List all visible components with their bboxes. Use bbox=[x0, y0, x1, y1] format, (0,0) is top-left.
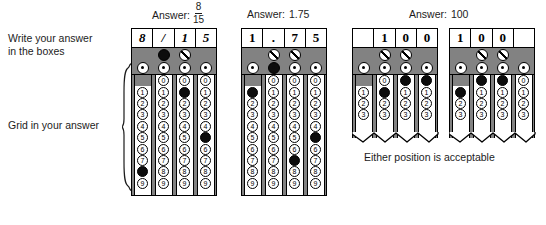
digit-bubble[interactable]: 6 bbox=[158, 144, 169, 155]
slash-bubble-cell[interactable] bbox=[395, 48, 416, 61]
decimal-bubble-cell[interactable] bbox=[284, 61, 305, 74]
decimal-bubble-cell[interactable] bbox=[416, 61, 437, 74]
decimal-bubble[interactable] bbox=[518, 62, 530, 74]
digit-bubble[interactable]: 6 bbox=[200, 144, 211, 155]
digit-bubble[interactable]: 3 bbox=[310, 109, 321, 120]
digit-bubble[interactable]: 8 bbox=[179, 166, 190, 177]
digit-bubble[interactable]: 7 bbox=[158, 155, 169, 166]
digit-bubble[interactable]: 5 bbox=[179, 132, 190, 143]
digit-bubble[interactable]: 0 bbox=[379, 75, 390, 86]
digit-bubble[interactable]: 3 bbox=[421, 109, 432, 120]
decimal-bubble[interactable] bbox=[455, 62, 467, 74]
digit-bubble[interactable]: 8 bbox=[247, 166, 258, 177]
slash-bubble-cell[interactable] bbox=[374, 48, 395, 61]
digit-bubble[interactable]: 9 bbox=[137, 178, 148, 189]
decimal-bubble-cell[interactable] bbox=[450, 61, 471, 74]
digit-bubble[interactable]: 8 bbox=[268, 166, 279, 177]
digit-bubble[interactable]: 0 bbox=[518, 75, 529, 86]
digit-bubble[interactable]: 9 bbox=[179, 178, 190, 189]
digit-bubble[interactable]: 3 bbox=[455, 109, 466, 120]
digit-bubble[interactable]: 5 bbox=[158, 132, 169, 143]
digit-bubble[interactable]: 1 bbox=[158, 87, 169, 98]
digit-bubble[interactable]: 4 bbox=[247, 121, 258, 132]
digit-bubble[interactable]: 3 bbox=[158, 109, 169, 120]
digit-bubble[interactable]: 0 bbox=[268, 75, 279, 86]
digit-bubble[interactable]: 4 bbox=[268, 121, 279, 132]
digit-bubble[interactable]: 8 bbox=[310, 166, 321, 177]
decimal-bubble-cell[interactable] bbox=[513, 61, 534, 74]
digit-bubble[interactable]: 5 bbox=[289, 132, 300, 143]
digit-bubble-filled[interactable]: 5 bbox=[310, 132, 321, 143]
decimal-bubble[interactable] bbox=[476, 62, 488, 74]
slash-bubble[interactable] bbox=[400, 49, 412, 61]
digit-bubble[interactable]: 3 bbox=[497, 109, 508, 120]
decimal-bubble-cell[interactable] bbox=[374, 61, 395, 74]
decimal-bubble[interactable] bbox=[379, 62, 391, 74]
decimal-bubble-filled[interactable] bbox=[268, 62, 280, 74]
decimal-bubble[interactable] bbox=[289, 62, 301, 74]
decimal-bubble-cell[interactable] bbox=[395, 61, 416, 74]
digit-bubble[interactable]: 7 bbox=[268, 155, 279, 166]
digit-bubble[interactable]: 8 bbox=[289, 166, 300, 177]
digit-bubble[interactable]: 8 bbox=[158, 166, 169, 177]
digit-bubble[interactable]: 0 bbox=[158, 75, 169, 86]
digit-bubble[interactable]: 7 bbox=[200, 155, 211, 166]
digit-bubble[interactable]: 2 bbox=[247, 98, 258, 109]
digit-bubble[interactable]: 1 bbox=[400, 87, 411, 98]
slash-bubble[interactable] bbox=[268, 49, 280, 61]
digit-bubble[interactable]: 3 bbox=[400, 109, 411, 120]
digit-bubble[interactable]: 2 bbox=[421, 98, 432, 109]
decimal-bubble-cell[interactable] bbox=[153, 61, 174, 74]
digit-bubble-filled[interactable]: 5 bbox=[200, 132, 211, 143]
digit-bubble[interactable]: 3 bbox=[289, 109, 300, 120]
written-answer-cell[interactable] bbox=[353, 29, 374, 47]
digit-bubble[interactable]: 3 bbox=[247, 109, 258, 120]
digit-bubble[interactable]: 3 bbox=[476, 109, 487, 120]
digit-bubble[interactable]: 5 bbox=[268, 132, 279, 143]
digit-bubble[interactable]: 7 bbox=[137, 155, 148, 166]
digit-bubble[interactable]: 2 bbox=[289, 98, 300, 109]
decimal-bubble-cell[interactable] bbox=[195, 61, 216, 74]
decimal-bubble-cell[interactable] bbox=[492, 61, 513, 74]
digit-bubble[interactable]: 2 bbox=[310, 98, 321, 109]
digit-bubble[interactable]: 9 bbox=[158, 178, 169, 189]
written-answer-cell[interactable]: 0 bbox=[396, 29, 417, 47]
decimal-bubble[interactable] bbox=[158, 62, 170, 74]
digit-bubble[interactable]: 1 bbox=[497, 87, 508, 98]
digit-bubble[interactable]: 6 bbox=[310, 144, 321, 155]
slash-bubble[interactable] bbox=[289, 49, 301, 61]
written-answer-cell[interactable]: 5 bbox=[306, 29, 326, 47]
decimal-bubble[interactable] bbox=[200, 62, 212, 74]
digit-bubble[interactable]: 3 bbox=[268, 109, 279, 120]
digit-bubble[interactable]: 3 bbox=[137, 109, 148, 120]
decimal-bubble[interactable] bbox=[400, 62, 412, 74]
digit-bubble[interactable]: 1 bbox=[268, 87, 279, 98]
digit-bubble[interactable]: 9 bbox=[247, 178, 258, 189]
decimal-bubble-cell[interactable] bbox=[263, 61, 284, 74]
digit-bubble[interactable]: 0 bbox=[200, 75, 211, 86]
digit-bubble-filled[interactable]: 1 bbox=[455, 87, 466, 98]
digit-bubble[interactable]: 1 bbox=[289, 87, 300, 98]
decimal-bubble[interactable] bbox=[247, 62, 259, 74]
digit-bubble[interactable]: 0 bbox=[179, 75, 190, 86]
slash-bubble-cell[interactable] bbox=[284, 48, 305, 61]
digit-bubble[interactable]: 8 bbox=[200, 166, 211, 177]
slash-bubble[interactable] bbox=[179, 49, 191, 61]
written-answer-cell[interactable]: 1 bbox=[374, 29, 395, 47]
digit-bubble[interactable]: 9 bbox=[200, 178, 211, 189]
digit-bubble[interactable]: 4 bbox=[137, 121, 148, 132]
digit-bubble[interactable]: 1 bbox=[137, 87, 148, 98]
digit-bubble[interactable]: 2 bbox=[497, 98, 508, 109]
digit-bubble[interactable]: 3 bbox=[518, 109, 529, 120]
digit-bubble-filled[interactable]: 0 bbox=[421, 75, 432, 86]
digit-bubble[interactable]: 7 bbox=[247, 155, 258, 166]
digit-bubble[interactable]: 5 bbox=[247, 132, 258, 143]
written-answer-cell[interactable]: 0 bbox=[417, 29, 437, 47]
digit-bubble[interactable]: 6 bbox=[247, 144, 258, 155]
digit-bubble[interactable]: 3 bbox=[179, 109, 190, 120]
digit-bubble[interactable]: 4 bbox=[200, 121, 211, 132]
decimal-bubble[interactable] bbox=[421, 62, 433, 74]
written-answer-cell[interactable] bbox=[514, 29, 534, 47]
digit-bubble[interactable]: 1 bbox=[200, 87, 211, 98]
slash-bubble[interactable] bbox=[379, 49, 391, 61]
